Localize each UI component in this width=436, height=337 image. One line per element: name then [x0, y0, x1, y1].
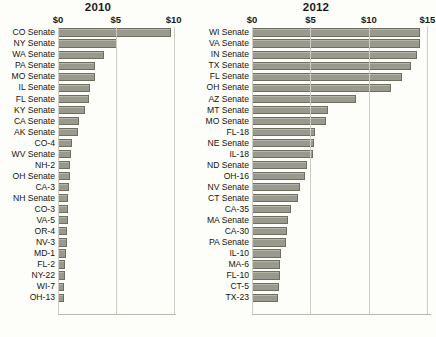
bar-row[interactable]: IL-18: [252, 149, 431, 160]
bar[interactable]: [58, 139, 72, 147]
bar-row[interactable]: MT Senate: [252, 104, 431, 115]
bar[interactable]: [252, 161, 307, 169]
bar[interactable]: [58, 161, 70, 169]
bar[interactable]: [252, 172, 305, 180]
bar[interactable]: [58, 271, 65, 279]
bar-row[interactable]: OH-13: [58, 292, 176, 303]
bar-row[interactable]: AZ Senate: [252, 93, 431, 104]
bar-row[interactable]: NE Senate: [252, 137, 431, 148]
bar-row[interactable]: IL Senate: [58, 82, 176, 93]
bar[interactable]: [252, 227, 287, 235]
bar-row[interactable]: CO-4: [58, 137, 176, 148]
bar-row[interactable]: NY-22: [58, 270, 176, 281]
bar-row[interactable]: NH Senate: [58, 193, 176, 204]
bar-row[interactable]: TX Senate: [252, 60, 431, 71]
bar[interactable]: [252, 51, 417, 59]
bar[interactable]: [252, 150, 313, 158]
bar-row[interactable]: FL-10: [252, 270, 431, 281]
bar[interactable]: [252, 73, 402, 81]
bar-row[interactable]: CO Senate: [58, 27, 176, 38]
bar[interactable]: [58, 238, 67, 246]
bar-row[interactable]: NY Senate: [58, 38, 176, 49]
category-label: NV-3: [36, 238, 58, 247]
bar-row[interactable]: ND Senate: [252, 160, 431, 171]
bar[interactable]: [58, 260, 65, 268]
bar[interactable]: [252, 260, 280, 268]
bar[interactable]: [252, 183, 300, 191]
bar[interactable]: [252, 216, 288, 224]
bar[interactable]: [252, 84, 391, 92]
bar[interactable]: [58, 39, 117, 47]
bar[interactable]: [58, 172, 70, 180]
bar[interactable]: [252, 139, 314, 147]
bar[interactable]: [252, 28, 420, 36]
bar-row[interactable]: NV-3: [58, 237, 176, 248]
bar-row[interactable]: OR-4: [58, 226, 176, 237]
bar[interactable]: [58, 62, 95, 70]
bar-row[interactable]: CO-3: [58, 204, 176, 215]
bar[interactable]: [58, 227, 67, 235]
bar-row[interactable]: CA-35: [252, 204, 431, 215]
bar[interactable]: [58, 73, 95, 81]
bar[interactable]: [58, 95, 89, 103]
bar[interactable]: [252, 117, 326, 125]
bar-row[interactable]: VA-5: [58, 215, 176, 226]
bar-row[interactable]: OH Senate: [58, 171, 176, 182]
bar[interactable]: [252, 62, 411, 70]
bar-row[interactable]: CT-5: [252, 281, 431, 292]
bar[interactable]: [252, 205, 291, 213]
bar[interactable]: [252, 95, 356, 103]
bar[interactable]: [252, 194, 298, 202]
bar-row[interactable]: WA Senate: [58, 49, 176, 60]
bar-row[interactable]: IL-10: [252, 248, 431, 259]
bar[interactable]: [58, 150, 71, 158]
bar-row[interactable]: KY Senate: [58, 104, 176, 115]
bar[interactable]: [252, 106, 328, 114]
bar-row[interactable]: FL-18: [252, 126, 431, 137]
bar-row[interactable]: OH Senate: [252, 82, 431, 93]
bar[interactable]: [58, 205, 68, 213]
bar-row[interactable]: FL Senate: [58, 93, 176, 104]
bar[interactable]: [58, 51, 104, 59]
bar[interactable]: [252, 283, 279, 291]
bar-row[interactable]: MD-1: [58, 248, 176, 259]
bar-row[interactable]: WI-7: [58, 281, 176, 292]
bar-row[interactable]: NH-2: [58, 160, 176, 171]
bar-row[interactable]: MO Senate: [58, 71, 176, 82]
bar-row[interactable]: CA-30: [252, 226, 431, 237]
bar-row[interactable]: NV Senate: [252, 182, 431, 193]
bar-row[interactable]: CA Senate: [58, 115, 176, 126]
bar-row[interactable]: VA Senate: [252, 38, 431, 49]
bar-row[interactable]: IN Senate: [252, 49, 431, 60]
bar[interactable]: [58, 117, 79, 125]
bar[interactable]: [252, 238, 286, 246]
bar-row[interactable]: OH-16: [252, 171, 431, 182]
bar-row[interactable]: TX-23: [252, 292, 431, 303]
bar-row[interactable]: FL-2: [58, 259, 176, 270]
bar-row[interactable]: CT Senate: [252, 193, 431, 204]
bar[interactable]: [58, 216, 68, 224]
bar[interactable]: [58, 194, 68, 202]
bar[interactable]: [58, 28, 171, 36]
bar[interactable]: [58, 84, 90, 92]
bar[interactable]: [58, 249, 66, 257]
bar-row[interactable]: FL Senate: [252, 71, 431, 82]
bar[interactable]: [252, 271, 280, 279]
bar-row[interactable]: WV Senate: [58, 149, 176, 160]
bar-row[interactable]: WI Senate: [252, 27, 431, 38]
bar[interactable]: [58, 128, 78, 136]
bar-row[interactable]: MA Senate: [252, 215, 431, 226]
bar-row[interactable]: AK Senate: [58, 126, 176, 137]
bar[interactable]: [252, 39, 420, 47]
bar[interactable]: [252, 128, 315, 136]
bar-row[interactable]: PA Senate: [58, 60, 176, 71]
category-label: ND Senate: [207, 161, 252, 170]
bar-row[interactable]: CA-3: [58, 182, 176, 193]
bar-row[interactable]: PA Senate: [252, 237, 431, 248]
bar[interactable]: [252, 249, 281, 257]
bar[interactable]: [58, 106, 85, 114]
bar[interactable]: [252, 294, 278, 302]
bar-row[interactable]: MA-6: [252, 259, 431, 270]
bar-row[interactable]: MO Senate: [252, 115, 431, 126]
bar[interactable]: [58, 183, 69, 191]
